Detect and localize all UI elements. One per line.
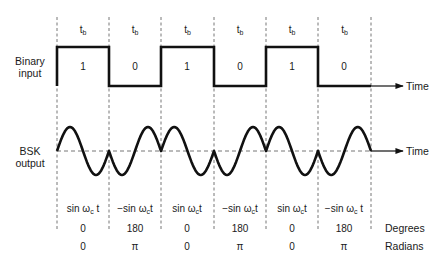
phase-degrees: 180 [318, 223, 370, 234]
binary-input-label-line2: input [8, 67, 52, 79]
fn-suffix: t [255, 203, 258, 214]
phase-degrees: 0 [57, 223, 109, 234]
fn-prefix: −sin ω [325, 203, 354, 214]
time-label-bsk: Time [406, 145, 429, 157]
bit-value: 0 [109, 61, 161, 72]
phase-radians: 0 [266, 241, 318, 252]
phase-function: −sin ωct [214, 203, 266, 214]
bit-period-label: tb [266, 24, 318, 35]
bit-value: 1 [266, 61, 318, 72]
phase-function: sin ωct [161, 203, 213, 214]
phase-function: −sin ωct [109, 203, 161, 214]
phase-degrees: 180 [214, 223, 266, 234]
phase-function: sin ωc t [57, 203, 109, 214]
phase-radians: 0 [57, 241, 109, 252]
bit-period-label: tb [318, 24, 371, 35]
bit-value: 1 [161, 61, 213, 72]
bsk-output-label-line1: BSK [8, 145, 52, 157]
bit-period-label: tb [57, 24, 109, 35]
fn-suffix: t [304, 203, 307, 214]
bit-period-label: tb [109, 24, 161, 35]
phase-function: sin ωct [266, 203, 318, 214]
radians-label: Radians [385, 240, 424, 252]
period-sub: b [291, 29, 295, 36]
bit-period-label: tb [214, 24, 266, 35]
binary-input-label-line1: Binary [8, 55, 52, 67]
phase-function: −sin ωc t [318, 203, 370, 214]
time-label-binary: Time [406, 80, 429, 92]
fn-prefix: −sin ω [117, 203, 146, 214]
fn-suffix: t [94, 203, 100, 214]
period-sub: b [187, 29, 191, 36]
fn-prefix: sin ω [172, 203, 195, 214]
fn-suffix: t [150, 203, 153, 214]
binary-input-label: Binary input [8, 55, 52, 79]
fn-prefix: sin ω [67, 203, 90, 214]
bit-period-label: tb [161, 24, 214, 35]
phase-degrees: 0 [266, 223, 318, 234]
phase-degrees: 180 [109, 223, 161, 234]
bit-value: 1 [57, 61, 109, 72]
bsk-output-label: BSK output [8, 145, 52, 169]
phase-radians: π [109, 241, 161, 252]
bsk-output-label-line2: output [8, 157, 52, 169]
period-sub: b [134, 29, 138, 36]
period-sub: b [239, 29, 243, 36]
period-sub: b [82, 29, 86, 36]
bit-value: 0 [318, 61, 370, 72]
phase-radians: π [214, 241, 266, 252]
period-sub: b [344, 29, 348, 36]
phase-radians: 0 [161, 241, 213, 252]
phase-degrees: 0 [161, 223, 213, 234]
fn-suffix: t [199, 203, 202, 214]
fn-suffix: t [358, 203, 364, 214]
phase-radians: π [318, 241, 370, 252]
degrees-label: Degrees [385, 222, 425, 234]
fn-prefix: −sin ω [222, 203, 251, 214]
bit-value: 0 [214, 61, 266, 72]
fn-prefix: sin ω [277, 203, 300, 214]
